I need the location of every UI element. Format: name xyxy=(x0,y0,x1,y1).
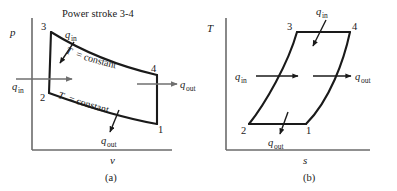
panel-b-q-in-side-label: q in xyxy=(235,71,247,85)
power-stroke-annotation: Power stroke 3-4 xyxy=(62,8,134,19)
panel-a-process-2-3 xyxy=(49,32,51,93)
panel-b-caption: (b) xyxy=(303,172,316,184)
panel-b-state-point-2: 2 xyxy=(241,125,246,136)
panel-a-q-out-bottom-label: q out xyxy=(101,135,118,149)
q-symbol: q xyxy=(268,137,273,148)
panel-a-y-axis-label: p xyxy=(9,26,16,38)
panel-a-x-axis-label: v xyxy=(110,154,115,166)
panel-a-isotherm-label-3-4: T = constant xyxy=(65,45,118,71)
q-symbol: q xyxy=(12,81,17,92)
panel-a: p v 3 2 4 1 Power stroke 3-4 q in q in q… xyxy=(9,8,197,184)
panel-b-state-point-1: 1 xyxy=(306,125,311,136)
q-subscript: out xyxy=(274,142,285,151)
panel-b-q-out-bottom-label: q out xyxy=(268,137,285,151)
panel-b-q-out-side-label: q out xyxy=(355,71,372,85)
figure-canvas: p v 3 2 4 1 Power stroke 3-4 q in q in q… xyxy=(0,0,397,191)
panel-b-state-point-3: 3 xyxy=(287,21,292,32)
panel-b-y-axis-label: T xyxy=(207,22,214,34)
panel-a-state-point-4: 4 xyxy=(151,63,157,74)
panel-a-state-point-3: 3 xyxy=(41,21,46,32)
panel-a-isotherm-label-1-2: T = constant xyxy=(57,89,111,115)
panel-a-state-point-2: 2 xyxy=(40,92,45,103)
q-subscript: out xyxy=(361,76,372,85)
panel-a-q-out-side-label: q out xyxy=(180,79,197,93)
panel-b-x-axis-label: s xyxy=(303,154,307,166)
q-symbol: q xyxy=(355,71,360,82)
panel-b-state-point-4: 4 xyxy=(352,21,358,32)
q-subscript: in xyxy=(322,11,328,20)
q-symbol: q xyxy=(235,71,240,82)
panel-a-caption: (a) xyxy=(105,172,117,184)
isotherm-constant-text: = constant xyxy=(75,48,118,70)
panel-a-q-in-side-label: q in xyxy=(12,81,24,95)
q-subscript: in xyxy=(71,34,77,43)
q-symbol: q xyxy=(180,79,185,90)
panel-b: T s 3 4 2 1 q in q in q out q out xyxy=(207,6,372,184)
isotherm-T-symbol: T xyxy=(65,45,75,58)
q-subscript: in xyxy=(18,86,24,95)
panel-b-q-in-top-label: q in xyxy=(316,6,328,20)
q-subscript: in xyxy=(241,76,247,85)
q-symbol: q xyxy=(101,135,106,146)
isotherm-constant-text: = constant xyxy=(67,93,110,115)
isotherm-T-symbol: T xyxy=(57,89,67,102)
q-subscript: out xyxy=(186,84,197,93)
panel-a-state-point-1: 1 xyxy=(158,124,163,135)
panel-b-process-2-3 xyxy=(249,32,297,124)
q-subscript: out xyxy=(107,140,118,149)
thermodynamic-cycle-figure: p v 3 2 4 1 Power stroke 3-4 q in q in q… xyxy=(0,0,397,191)
q-symbol: q xyxy=(65,29,70,40)
q-symbol: q xyxy=(316,6,321,17)
